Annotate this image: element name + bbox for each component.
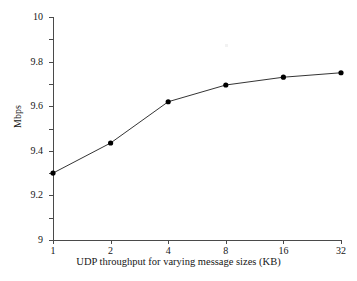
x-tick-label: 2 [108, 246, 113, 256]
data-point [108, 140, 113, 145]
data-point [50, 171, 55, 176]
plot-area: 88.28.48.68.899.29.49.69.810 12481632 [53, 17, 341, 240]
series-line [53, 73, 341, 173]
y-tick-label: 9.4 [31, 146, 44, 156]
x-tick-label: 8 [223, 246, 228, 256]
x-axis-line [53, 240, 341, 241]
x-tick-label: 4 [166, 246, 171, 256]
y-tick-label: 9 [38, 235, 43, 245]
chart-figure: 88.28.48.68.899.29.49.69.810 12481632 Mb… [0, 0, 357, 281]
data-point [223, 82, 228, 87]
y-tick-label: 10 [33, 12, 43, 22]
series-markers [50, 70, 343, 176]
y-axis-title: Mbps [13, 105, 23, 128]
x-tick [111, 240, 112, 244]
x-tick [283, 240, 284, 244]
x-tick-label: 1 [51, 246, 56, 256]
x-tick [341, 240, 342, 244]
x-tick-label: 16 [278, 246, 288, 256]
data-series [53, 17, 341, 240]
x-tick-label: 32 [336, 246, 346, 256]
x-tick [53, 240, 54, 244]
y-tick-label: 9.8 [31, 57, 44, 67]
data-point [338, 70, 343, 75]
data-point [281, 75, 286, 80]
data-point [166, 99, 171, 104]
y-tick-label: 9.2 [31, 190, 44, 200]
y-tick-label: 9.6 [31, 101, 44, 111]
x-tick [226, 240, 227, 244]
x-axis-title: UDP throughput for varying message sizes… [0, 256, 357, 268]
x-tick [168, 240, 169, 244]
